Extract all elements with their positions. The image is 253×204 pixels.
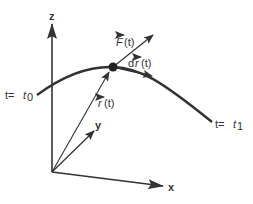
position-label: r (t) xyxy=(98,97,114,109)
x-axis xyxy=(52,172,163,186)
y-axis xyxy=(52,131,94,172)
trajectory-curve xyxy=(37,67,212,122)
svg-text:r: r xyxy=(135,57,140,69)
displacement-label: d r (t) xyxy=(128,57,151,69)
svg-text:F: F xyxy=(116,36,124,48)
end-time-label: t= t 1 xyxy=(215,118,243,132)
svg-text:r: r xyxy=(98,97,103,109)
svg-text:(t): (t) xyxy=(104,97,114,109)
force-label: F (t) xyxy=(116,35,134,48)
z-axis-label: z xyxy=(49,10,55,22)
svg-text:(t): (t) xyxy=(124,36,134,48)
x-axis-label: x xyxy=(168,181,175,193)
svg-text:d: d xyxy=(128,57,134,69)
svg-text:t=: t= xyxy=(215,118,224,130)
svg-text:t=: t= xyxy=(5,89,14,101)
svg-text:1: 1 xyxy=(237,120,243,132)
trajectory-diagram: z x y F (t) d r (t) r (t) t= t 0 t= t xyxy=(0,0,253,204)
svg-text:0: 0 xyxy=(27,91,33,103)
start-time-label: t= t 0 xyxy=(5,89,33,103)
svg-text:(t): (t) xyxy=(141,57,151,69)
y-axis-label: y xyxy=(95,119,102,131)
particle-point xyxy=(109,63,118,72)
diagram-svg: z x y F (t) d r (t) r (t) t= t 0 t= t xyxy=(0,0,253,204)
